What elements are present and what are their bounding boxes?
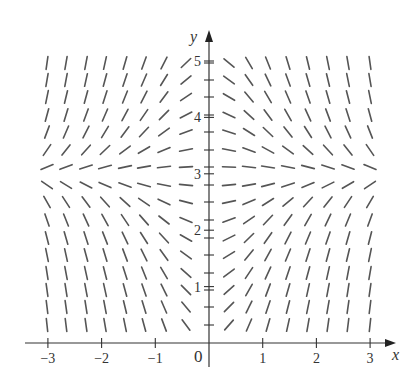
- slope-segment: [84, 91, 87, 104]
- slope-segment: [369, 91, 372, 104]
- slope-segment: [180, 184, 193, 185]
- slope-segment: [264, 215, 273, 224]
- slope-segment: [84, 232, 88, 244]
- slope-segment: [159, 128, 170, 136]
- slope-segment: [265, 91, 272, 102]
- slope-segment: [283, 146, 294, 154]
- slope-segment: [265, 249, 271, 260]
- slope-segment: [46, 74, 48, 87]
- slope-segment: [85, 57, 87, 70]
- slope-segment: [160, 233, 169, 243]
- slope-segment: [266, 301, 270, 313]
- slope-segment: [243, 166, 256, 167]
- slope-segment: [119, 166, 132, 169]
- slope-segment: [62, 145, 70, 155]
- slope-segment: [365, 181, 376, 188]
- slope-segment: [304, 197, 313, 206]
- slope-segment: [325, 214, 331, 226]
- slope-segment: [263, 128, 272, 137]
- slope-segment: [245, 75, 252, 86]
- slope-segment: [45, 214, 49, 226]
- slope-segment: [223, 130, 235, 134]
- slope-segment: [159, 216, 169, 224]
- slope-segment: [181, 251, 192, 259]
- slope-segment: [262, 183, 275, 186]
- slope-segment: [264, 110, 272, 120]
- slope-segment: [142, 267, 147, 279]
- slope-segment: [138, 166, 151, 168]
- x-tick-label: 1: [259, 351, 266, 366]
- slope-segment: [223, 112, 235, 117]
- slope-segment: [326, 109, 331, 121]
- slope-segment: [142, 57, 146, 69]
- slope-segment: [158, 148, 170, 153]
- slope-segment: [367, 196, 374, 207]
- slope-segment: [103, 91, 107, 103]
- slope-segment: [327, 301, 329, 314]
- slope-segment: [63, 197, 70, 208]
- slope-segment: [346, 91, 349, 104]
- slope-segment: [83, 214, 88, 226]
- slope-segment: [138, 147, 149, 154]
- slope-segment: [246, 301, 252, 313]
- slope-segment: [84, 109, 88, 121]
- slope-segment: [224, 302, 233, 311]
- slope-segment: [223, 201, 236, 204]
- slope-segment: [180, 167, 193, 168]
- slope-segment: [161, 57, 167, 69]
- slope-segment: [368, 232, 371, 245]
- slope-segment: [326, 91, 330, 103]
- slope-segment: [180, 130, 192, 134]
- slope-segment: [306, 267, 309, 280]
- slope-segment: [124, 301, 127, 314]
- slope-segment: [180, 235, 191, 241]
- x-tick-label: 2: [313, 351, 320, 366]
- y-axis-arrow-icon: [205, 30, 213, 42]
- slope-segment: [366, 145, 373, 156]
- slope-segment: [266, 284, 271, 296]
- slope-segment: [347, 74, 350, 87]
- slope-segment: [85, 267, 88, 280]
- slope-segment: [46, 301, 48, 314]
- slope-segment: [122, 232, 128, 244]
- slope-segment: [123, 57, 127, 70]
- y-tick-label: 4: [194, 110, 201, 125]
- slope-segment: [285, 232, 291, 244]
- slope-segment: [342, 182, 353, 189]
- y-tick-label: 5: [194, 54, 201, 69]
- slope-segment: [180, 200, 193, 203]
- slope-segment: [84, 249, 87, 262]
- slope-segment: [103, 267, 106, 280]
- slope-segment: [65, 91, 68, 104]
- slope-segment: [123, 91, 128, 103]
- slope-segment: [102, 214, 108, 225]
- slope-segment: [104, 284, 107, 297]
- slope-segment: [44, 196, 50, 207]
- slope-segment: [141, 91, 147, 103]
- y-tick-label: 2: [194, 223, 201, 238]
- slope-segment: [160, 92, 168, 102]
- slope-segment: [61, 182, 72, 189]
- slope-segment: [85, 74, 88, 87]
- slope-segment: [284, 215, 292, 226]
- slope-segment: [65, 319, 67, 332]
- slope-segment: [224, 59, 234, 67]
- slope-segment: [326, 249, 329, 262]
- slope-segment: [243, 199, 255, 204]
- slope-segment: [181, 76, 191, 84]
- slope-segment: [346, 232, 350, 244]
- slope-segment: [347, 267, 349, 280]
- slope-segment: [41, 165, 53, 170]
- slope-segment: [225, 320, 234, 330]
- slope-segment: [85, 301, 87, 314]
- slope-segment: [63, 126, 68, 138]
- slope-segment: [181, 269, 191, 278]
- slope-segment: [65, 267, 67, 280]
- slope-segment: [123, 74, 127, 86]
- slope-segment: [368, 126, 373, 138]
- slope-segment: [64, 109, 68, 121]
- slope-segment: [263, 199, 274, 206]
- slope-segment: [368, 214, 372, 226]
- slope-segment: [103, 74, 106, 87]
- slope-segment: [286, 57, 290, 69]
